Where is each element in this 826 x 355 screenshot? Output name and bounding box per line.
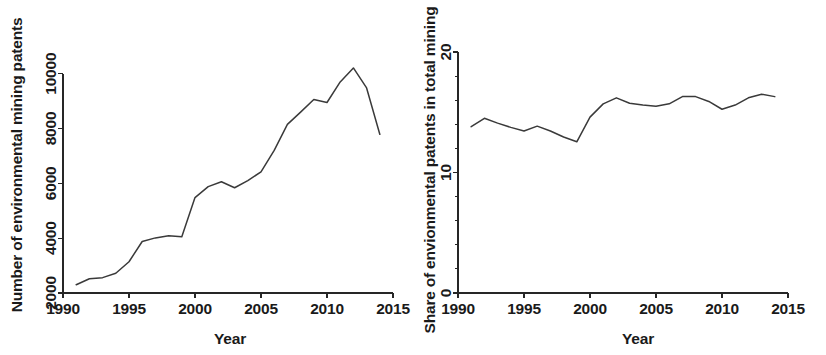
- x-tick-label: 1990: [441, 300, 475, 317]
- data-series-line: [76, 68, 380, 285]
- left-plot-group: 2000400060008000100001990199520002005201…: [42, 53, 410, 317]
- y-tick-label: 0: [437, 289, 454, 297]
- x-tick-label: 2000: [573, 300, 607, 317]
- figure-container: 2000400060008000100001990199520002005201…: [0, 0, 826, 355]
- y-tick-label: 8000: [42, 112, 59, 146]
- data-series-line: [471, 94, 775, 142]
- x-tick-label: 2015: [376, 300, 410, 317]
- x-tick-label: 2005: [244, 300, 278, 317]
- x-tick-label: 2015: [771, 300, 805, 317]
- chart-panel-right: 01020199019952000200520102015 Share of e…: [413, 0, 826, 355]
- x-tick-label: 2005: [639, 300, 673, 317]
- chart-right-svg: 01020199019952000200520102015 Share of e…: [413, 0, 826, 355]
- x-tick-label: 1995: [507, 300, 541, 317]
- x-tick-label: 2010: [310, 300, 344, 317]
- x-tick-label: 1990: [46, 300, 80, 317]
- left-y-axis-title: Number of environmental mining patents: [8, 18, 25, 313]
- y-tick-label: 6000: [42, 167, 59, 201]
- y-tick-label: 10: [437, 164, 454, 181]
- x-tick-label: 1995: [112, 300, 146, 317]
- y-tick-label: 10000: [42, 53, 59, 95]
- chart-left-svg: 2000400060008000100001990199520002005201…: [0, 0, 413, 355]
- right-y-axis-title: Share of envionmental patents in total m…: [421, 7, 438, 334]
- x-tick-label: 2010: [705, 300, 739, 317]
- left-x-axis-title: Year: [214, 330, 246, 347]
- y-tick-label: 4000: [42, 221, 59, 255]
- right-plot-group: 01020199019952000200520102015: [437, 44, 805, 317]
- right-x-axis-title: Year: [622, 330, 654, 347]
- x-tick-label: 2000: [178, 300, 212, 317]
- y-tick-label: 20: [437, 44, 454, 61]
- chart-panel-left: 2000400060008000100001990199520002005201…: [0, 0, 413, 355]
